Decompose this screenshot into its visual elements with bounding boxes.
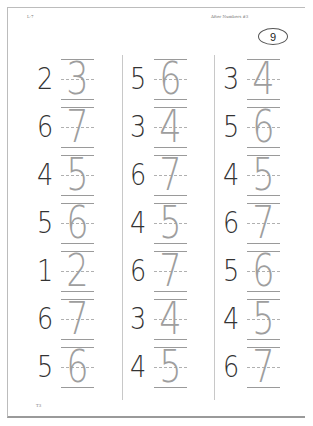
trace-number: 4 bbox=[157, 105, 183, 149]
number-row: 34 bbox=[127, 299, 217, 347]
given-number: 4 bbox=[129, 203, 148, 243]
number-row: 56 bbox=[34, 203, 124, 251]
number-row: 67 bbox=[220, 347, 310, 395]
number-row: 45 bbox=[34, 155, 124, 203]
given-number: 3 bbox=[129, 107, 148, 147]
number-row: 56 bbox=[220, 107, 310, 155]
trace-number: 6 bbox=[64, 201, 90, 245]
given-number: 3 bbox=[129, 299, 148, 339]
given-number: 6 bbox=[129, 251, 148, 291]
given-number: 4 bbox=[222, 155, 241, 195]
trace-number: 4 bbox=[157, 297, 183, 341]
number-row: 67 bbox=[127, 251, 217, 299]
number-row: 45 bbox=[220, 155, 310, 203]
given-number: 5 bbox=[222, 107, 241, 147]
given-number: 5 bbox=[36, 203, 55, 243]
tracing-box[interactable]: 3 bbox=[61, 59, 94, 99]
tracing-box[interactable]: 4 bbox=[154, 107, 187, 147]
trace-number: 6 bbox=[64, 345, 90, 389]
tracing-box[interactable]: 5 bbox=[154, 347, 187, 387]
trace-number: 7 bbox=[64, 105, 90, 149]
number-row: 67 bbox=[220, 203, 310, 251]
tracing-box[interactable]: 6 bbox=[61, 203, 94, 243]
worksheet-title: After Numbers #3 bbox=[211, 14, 248, 19]
given-number: 6 bbox=[36, 107, 55, 147]
tracing-box[interactable]: 4 bbox=[154, 299, 187, 339]
given-number: 5 bbox=[36, 347, 55, 387]
lesson-code: L-7 bbox=[27, 14, 34, 19]
number-row: 45 bbox=[127, 347, 217, 395]
trace-number: 6 bbox=[157, 57, 183, 101]
trace-number: 5 bbox=[64, 153, 90, 197]
given-number: 2 bbox=[36, 59, 55, 99]
trace-number: 6 bbox=[250, 249, 276, 293]
number-row: 67 bbox=[127, 155, 217, 203]
trace-number: 5 bbox=[157, 345, 183, 389]
number-row: 23 bbox=[34, 59, 124, 107]
given-number: 5 bbox=[222, 251, 241, 291]
trace-number: 4 bbox=[250, 57, 276, 101]
given-number: 6 bbox=[222, 203, 241, 243]
worksheet-column-2: 56346745673445 bbox=[127, 59, 217, 395]
page-number-badge: 9 bbox=[258, 28, 288, 45]
given-number: 5 bbox=[129, 59, 148, 99]
tracing-box[interactable]: 5 bbox=[61, 155, 94, 195]
tracing-box[interactable]: 6 bbox=[247, 107, 280, 147]
number-row: 56 bbox=[34, 347, 124, 395]
number-row: 34 bbox=[220, 59, 310, 107]
tracing-box[interactable]: 6 bbox=[247, 251, 280, 291]
tracing-box[interactable]: 5 bbox=[154, 203, 187, 243]
tracing-box[interactable]: 7 bbox=[61, 299, 94, 339]
trace-number: 5 bbox=[157, 201, 183, 245]
footer-code: T3 bbox=[36, 403, 41, 408]
tracing-box[interactable]: 5 bbox=[247, 155, 280, 195]
tracing-box[interactable]: 7 bbox=[154, 155, 187, 195]
tracing-box[interactable]: 4 bbox=[247, 59, 280, 99]
given-number: 6 bbox=[36, 299, 55, 339]
worksheet-column-1: 23674556126756 bbox=[34, 59, 124, 395]
trace-number: 7 bbox=[250, 345, 276, 389]
worksheet-column-3: 34564567564567 bbox=[220, 59, 310, 395]
tracing-box[interactable]: 7 bbox=[247, 203, 280, 243]
number-row: 67 bbox=[34, 299, 124, 347]
number-row: 67 bbox=[34, 107, 124, 155]
number-row: 56 bbox=[220, 251, 310, 299]
number-row: 56 bbox=[127, 59, 217, 107]
given-number: 6 bbox=[129, 155, 148, 195]
number-row: 45 bbox=[127, 203, 217, 251]
given-number: 6 bbox=[222, 347, 241, 387]
given-number: 4 bbox=[222, 299, 241, 339]
trace-number: 7 bbox=[157, 249, 183, 293]
given-number: 4 bbox=[129, 347, 148, 387]
given-number: 1 bbox=[36, 251, 55, 291]
tracing-box[interactable]: 7 bbox=[61, 107, 94, 147]
given-number: 4 bbox=[36, 155, 55, 195]
given-number: 3 bbox=[222, 59, 241, 99]
trace-number: 6 bbox=[250, 105, 276, 149]
tracing-box[interactable]: 7 bbox=[247, 347, 280, 387]
trace-number: 7 bbox=[157, 153, 183, 197]
tracing-box[interactable]: 5 bbox=[247, 299, 280, 339]
trace-number: 3 bbox=[64, 57, 90, 101]
tracing-box[interactable]: 2 bbox=[61, 251, 94, 291]
number-row: 45 bbox=[220, 299, 310, 347]
number-row: 12 bbox=[34, 251, 124, 299]
trace-number: 5 bbox=[250, 153, 276, 197]
trace-number: 7 bbox=[64, 297, 90, 341]
trace-number: 5 bbox=[250, 297, 276, 341]
trace-number: 2 bbox=[64, 249, 90, 293]
trace-number: 7 bbox=[250, 201, 276, 245]
tracing-box[interactable]: 6 bbox=[154, 59, 187, 99]
tracing-box[interactable]: 6 bbox=[61, 347, 94, 387]
number-row: 34 bbox=[127, 107, 217, 155]
tracing-box[interactable]: 7 bbox=[154, 251, 187, 291]
